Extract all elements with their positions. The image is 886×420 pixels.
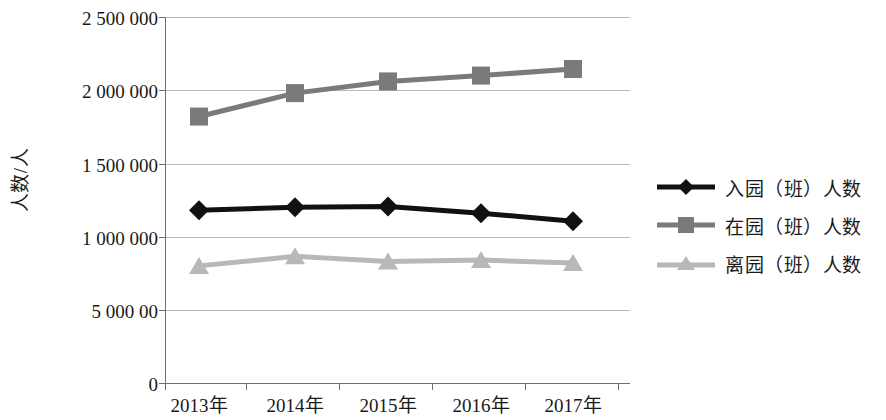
chart-legend: 入园（班）人数 在园（班）人数 离园（班）人数 xyxy=(655,168,885,282)
data-point-square-marker xyxy=(564,60,582,78)
legend-swatch-diamond-icon xyxy=(655,177,717,197)
series-layer xyxy=(165,0,630,420)
x-tick-label: 2017年 xyxy=(518,390,628,417)
data-point-square-marker xyxy=(472,67,490,85)
y-tick-label: 1 500 000 xyxy=(28,156,158,175)
series-1 xyxy=(189,197,583,232)
data-point-diamond-marker xyxy=(189,200,209,220)
data-point-diamond-marker xyxy=(563,211,583,231)
legend-item[interactable]: 入园（班）人数 xyxy=(655,168,885,206)
legend-label: 在园（班）人数 xyxy=(725,212,862,239)
x-axis-tick-labels: 2013年 2014年 2015年 2016年 2017年 xyxy=(165,390,630,420)
legend-swatch-square-icon xyxy=(655,215,717,235)
line-chart: 人数/人 2 500 000 2 000 000 1 500 000 1 000… xyxy=(0,0,886,420)
legend-label: 离园（班）人数 xyxy=(725,250,862,277)
series-2 xyxy=(190,60,582,126)
series-3 xyxy=(189,247,583,274)
y-tick-label: 2 500 000 xyxy=(28,9,158,28)
data-point-square-marker xyxy=(379,72,397,90)
x-tick-label: 2013年 xyxy=(144,390,254,417)
data-point-diamond-marker xyxy=(378,197,398,217)
data-point-square-marker xyxy=(286,84,304,102)
data-point-diamond-marker xyxy=(285,197,305,217)
y-tick-label: 1 000 000 xyxy=(28,229,158,248)
y-tick-label: 2 000 000 xyxy=(28,82,158,101)
legend-swatch-triangle-icon xyxy=(655,253,717,273)
data-point-square-marker xyxy=(190,108,208,126)
data-point-diamond-marker xyxy=(471,203,491,223)
y-tick-label: 5 000 00 xyxy=(28,302,158,321)
y-axis-tick-labels: 2 500 000 2 000 000 1 500 000 1 000 000 … xyxy=(18,0,158,420)
legend-label: 入园（班）人数 xyxy=(725,174,862,201)
legend-item[interactable]: 离园（班）人数 xyxy=(655,244,885,282)
legend-item[interactable]: 在园（班）人数 xyxy=(655,206,885,244)
y-tick-label: 0 xyxy=(28,375,158,394)
